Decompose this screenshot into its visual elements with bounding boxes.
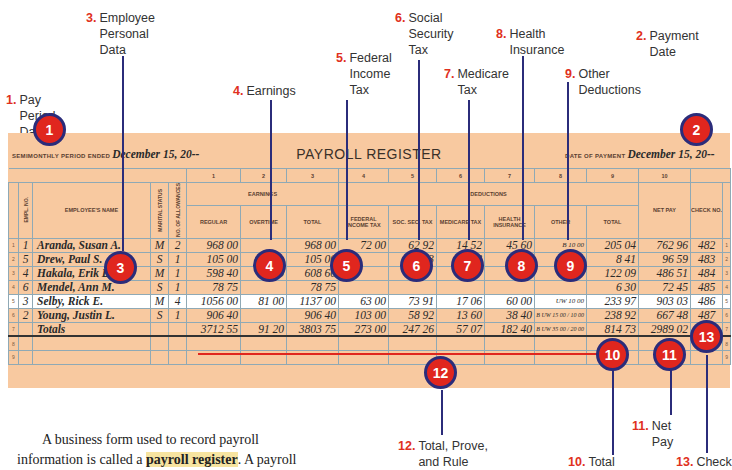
callout-payment-date: 2.Payment Date xyxy=(636,28,699,60)
header-ss: SOC. SEC. TAX xyxy=(389,206,437,239)
header-total-earnings: TOTAL xyxy=(287,206,339,239)
pointer-line-8 xyxy=(522,56,524,240)
red-rule-line xyxy=(198,353,628,355)
totals-row: 7Totals 3712 5591 203803 75 273 00247 26… xyxy=(9,322,731,336)
header-marital: MARITAL STATUS xyxy=(157,189,163,232)
header-other: OTHER xyxy=(535,206,587,239)
badge-9: 9 xyxy=(554,249,587,282)
callout-health-insurance: 8.Health Insurance xyxy=(496,26,569,58)
badge-1: 1 xyxy=(33,113,66,146)
pointer-line-12 xyxy=(441,390,443,435)
header-overtime: OVERTIME xyxy=(241,206,287,239)
header-medicare: MEDICARE TAX xyxy=(437,206,485,239)
callout-earnings: 4.Earnings xyxy=(233,83,296,99)
header-name: EMPLOYEE'S NAME xyxy=(33,183,151,239)
callout-employee-personal-data: 3.Employee Personal Data xyxy=(86,10,157,58)
header-allowances: NO. OF ALLOWANCES xyxy=(175,183,181,237)
badge-3: 3 xyxy=(104,251,137,284)
table-row: 62Young, Justin L.S1 906 40906 40 103 00… xyxy=(9,308,731,322)
header-check: CHECK NO. xyxy=(691,183,723,239)
callout-medicare-tax: 7.Medicare Tax xyxy=(444,66,512,98)
pointer-line-5 xyxy=(346,100,348,240)
header-total-deductions: TOTAL xyxy=(587,206,639,239)
badge-4: 4 xyxy=(253,249,286,282)
body-paragraph: A business form used to record payroll i… xyxy=(42,430,296,470)
pointer-line-3 xyxy=(122,56,124,251)
pointer-line-13 xyxy=(706,355,708,453)
pointer-line-6 xyxy=(418,60,420,240)
badge-13: 13 xyxy=(690,320,723,353)
pointer-line-10 xyxy=(612,370,614,455)
header-regular: REGULAR xyxy=(187,206,241,239)
header-net-pay: NET PAY xyxy=(639,183,691,239)
pointer-line-9 xyxy=(567,82,569,240)
badge-5: 5 xyxy=(330,249,363,282)
header-empl-no: EMPL. NO. xyxy=(23,197,29,223)
term-payroll-register: payroll register xyxy=(146,452,238,467)
badge-6: 6 xyxy=(400,249,433,282)
badge-11: 11 xyxy=(653,338,686,371)
badge-8: 8 xyxy=(505,249,538,282)
badge-7: 7 xyxy=(451,249,484,282)
payment-date: DATE OF PAYMENT December 15, 20-- xyxy=(565,148,715,160)
callout-other-deductions: 9.Other Deductions xyxy=(565,66,648,98)
header-health: HEALTH INSURANCE xyxy=(485,206,535,239)
pointer-line-11 xyxy=(670,370,672,415)
badge-2: 2 xyxy=(680,113,713,146)
group-deductions: DEDUCTIONS xyxy=(339,183,639,206)
badge-10: 10 xyxy=(596,338,629,371)
callout-total: 10.Total xyxy=(568,454,615,470)
callout-social-security-tax: 6.Social Security Tax xyxy=(395,10,453,58)
callout-total-prove-rule: 12.Total, Prove, and Rule xyxy=(398,438,498,470)
badge-12: 12 xyxy=(424,356,457,389)
table-row-highlighted: 53Selby, Rick E.M4 1056 0081 001137 00 6… xyxy=(9,294,731,308)
callout-federal-income-tax: 5.Federal Income Tax xyxy=(336,50,394,98)
callout-net-pay: 11.Net Pay xyxy=(632,418,680,450)
group-earnings: EARNINGS xyxy=(187,183,339,206)
pointer-line-4 xyxy=(270,100,272,240)
callout-check: 13.Check xyxy=(676,454,732,470)
pointer-line-7 xyxy=(468,100,470,240)
